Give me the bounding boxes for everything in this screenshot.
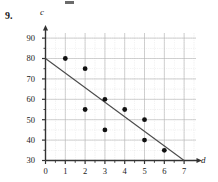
- x-tick-label: 1: [60, 166, 70, 176]
- major-gridlines: [46, 33, 197, 160]
- y-tick-label: 50: [19, 115, 35, 125]
- figure-container: 9. c d 30405060708090 01234567: [0, 0, 218, 182]
- axes: [43, 25, 202, 163]
- y-tick-label: 90: [19, 33, 35, 43]
- y-tick-label: 60: [19, 94, 35, 104]
- x-tick-label: 2: [80, 166, 90, 176]
- x-tick-label: 3: [100, 166, 110, 176]
- x-tick-label: 7: [179, 166, 189, 176]
- x-tick-label: 6: [159, 166, 169, 176]
- y-tick-label: 80: [19, 53, 35, 63]
- y-tick-label: 40: [19, 135, 35, 145]
- minor-gridlines: [46, 33, 197, 160]
- x-tick-label: 5: [140, 166, 150, 176]
- x-tick-label: 0: [41, 166, 51, 176]
- data-points: [63, 56, 167, 153]
- x-tick-label: 4: [120, 166, 130, 176]
- y-tick-label: 30: [19, 155, 35, 165]
- y-tick-label: 70: [19, 74, 35, 84]
